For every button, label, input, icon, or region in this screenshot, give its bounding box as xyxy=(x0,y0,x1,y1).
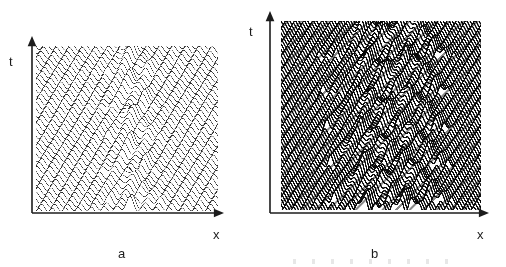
panel-label-a: a xyxy=(118,247,125,260)
x-axis-label-a: x xyxy=(213,228,220,241)
wave-field-plot-b xyxy=(281,21,481,210)
panel-b: t x b xyxy=(253,0,506,267)
panel-label-b: b xyxy=(371,247,378,260)
wave-field-plot-a xyxy=(36,46,218,211)
x-axis-label-b: x xyxy=(477,228,484,241)
figure-root: t x a t x b xyxy=(0,0,506,267)
y-axis-label-b: t xyxy=(249,25,253,38)
panel-a: t x a xyxy=(0,0,253,267)
y-axis-label-a: t xyxy=(9,55,13,68)
